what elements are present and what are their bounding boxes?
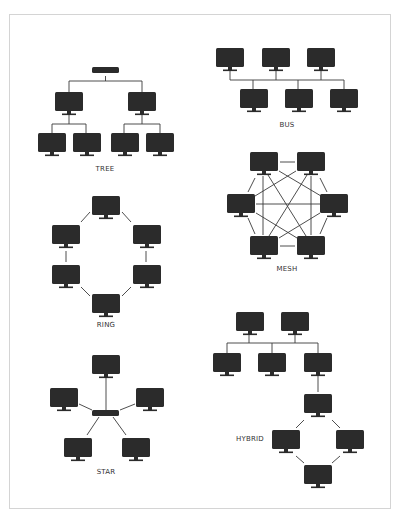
monitor-icon <box>272 430 300 453</box>
monitor-icon <box>73 133 101 156</box>
tree-nodes <box>38 67 174 156</box>
hybrid-label: HYBRID <box>236 435 264 443</box>
ring-label: RING <box>97 321 115 329</box>
bus-topology <box>230 71 344 89</box>
monitor-icon <box>213 353 241 376</box>
network-switch-icon <box>92 67 119 73</box>
monitor-icon <box>133 225 161 248</box>
bus-label: BUS <box>280 121 295 129</box>
monitor-icon <box>281 312 309 335</box>
monitor-icon <box>227 194 255 217</box>
monitor-icon <box>307 48 335 71</box>
tree-label: TREE <box>96 165 115 173</box>
monitor-icon <box>250 152 278 175</box>
monitor-icon <box>297 152 325 175</box>
monitor-icon <box>64 438 92 461</box>
monitor-icon <box>285 89 313 112</box>
star-topology <box>79 378 135 435</box>
monitor-icon <box>133 265 161 288</box>
monitor-icon <box>236 312 264 335</box>
monitor-icon <box>92 294 120 317</box>
monitor-icon <box>128 92 156 115</box>
monitor-icon <box>304 394 332 417</box>
monitor-icon <box>122 438 150 461</box>
mesh-label: MESH <box>277 265 298 273</box>
ring-nodes <box>52 196 161 317</box>
monitor-icon <box>320 194 348 217</box>
monitor-icon <box>38 133 66 156</box>
monitor-icon <box>262 48 290 71</box>
monitor-icon <box>92 355 120 378</box>
monitor-icon <box>111 133 139 156</box>
monitor-icon <box>216 48 244 71</box>
network-switch-icon <box>92 410 119 416</box>
monitor-icon <box>55 92 83 115</box>
monitor-icon <box>146 133 174 156</box>
hybrid-nodes <box>213 312 364 488</box>
star-label: STAR <box>97 468 116 476</box>
monitor-icon <box>50 388 78 411</box>
monitor-icon <box>304 465 332 488</box>
monitor-icon <box>52 265 80 288</box>
monitor-icon <box>92 196 120 219</box>
topology-canvas <box>0 0 400 520</box>
monitor-icon <box>52 225 80 248</box>
monitor-icon <box>297 236 325 259</box>
monitor-icon <box>330 89 358 112</box>
monitor-icon <box>240 89 268 112</box>
star-nodes <box>50 355 164 461</box>
monitor-icon <box>304 353 332 376</box>
monitor-icon <box>336 430 364 453</box>
monitor-icon <box>250 236 278 259</box>
monitor-icon <box>258 353 286 376</box>
monitor-icon <box>136 388 164 411</box>
